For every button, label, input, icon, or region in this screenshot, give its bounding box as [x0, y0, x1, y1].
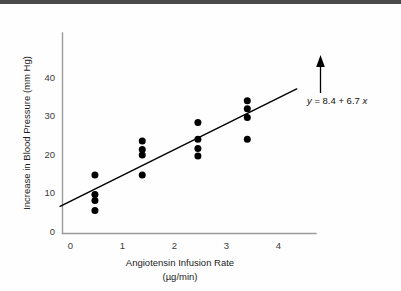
x-tick-label: 0 [68, 240, 73, 251]
x-axis-title-line2: (µg/min) [162, 271, 197, 282]
data-point [194, 136, 201, 143]
data-point [194, 119, 201, 126]
data-point [91, 171, 98, 178]
equation-x-symbol: x [361, 95, 368, 106]
y-tick-label: 0 [50, 226, 55, 237]
data-point [91, 197, 98, 204]
regression-equation: y = 8.4 + 6.7 x [306, 95, 368, 106]
data-point [139, 171, 146, 178]
data-point [139, 151, 146, 158]
y-tick-label: 40 [44, 72, 55, 83]
y-tick-label: 30 [44, 110, 55, 121]
y-axis-title: Increase in Blood Pressure (mm Hg) [21, 56, 32, 210]
y-tick-label: 20 [44, 149, 55, 160]
data-points-layer [91, 97, 250, 214]
data-point [139, 138, 146, 145]
annotation-arrow [316, 55, 325, 93]
data-point [194, 153, 201, 160]
data-point [244, 136, 251, 143]
x-tick-label: 1 [120, 240, 125, 251]
figure-container: 0 10 20 30 40 0 1 2 3 4 Angiotensin Infu… [0, 0, 401, 291]
x-tick-label: 3 [224, 240, 229, 251]
data-point [244, 97, 251, 104]
x-axis-title-line1: Angiotensin Infusion Rate [126, 257, 234, 268]
data-point [194, 145, 201, 152]
data-point [244, 114, 251, 121]
regression-line [60, 89, 297, 206]
data-point [91, 207, 98, 214]
scatter-plot: 0 10 20 30 40 0 1 2 3 4 Angiotensin Infu… [0, 0, 401, 291]
x-tick-label: 2 [172, 240, 177, 251]
data-point [244, 105, 251, 112]
equation-body: = 8.4 + 6.7 [312, 95, 363, 106]
x-tick-label: 4 [276, 240, 281, 251]
y-tick-label: 10 [44, 187, 55, 198]
